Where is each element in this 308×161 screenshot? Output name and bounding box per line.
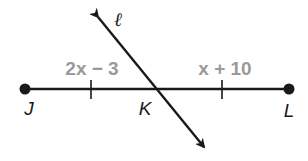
label-point-k: K [139, 98, 153, 119]
line-l [98, 17, 204, 147]
label-line-l: ℓ [114, 9, 122, 30]
label-point-l: L [284, 100, 295, 121]
label-point-j: J [23, 98, 34, 119]
point-j-dot [20, 84, 31, 95]
point-l-dot [284, 84, 295, 95]
label-jk-expression: 2x − 3 [65, 58, 118, 79]
label-kl-expression: x + 10 [198, 58, 251, 79]
geometry-diagram: 2x − 3 x + 10 J K L ℓ [0, 0, 308, 161]
